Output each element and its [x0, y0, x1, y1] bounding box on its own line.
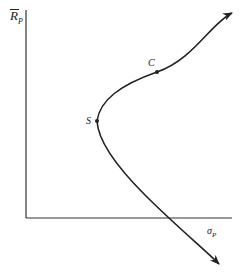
y-axis-label: RP — [10, 8, 23, 26]
point-c-label: C — [148, 57, 155, 68]
frontier-upper — [97, 13, 232, 121]
frontier-lower — [97, 121, 219, 264]
point-s-label: S — [86, 115, 91, 126]
x-axis-label: σP — [207, 225, 216, 239]
point-c-marker — [155, 70, 159, 74]
point-s-marker — [95, 119, 99, 123]
